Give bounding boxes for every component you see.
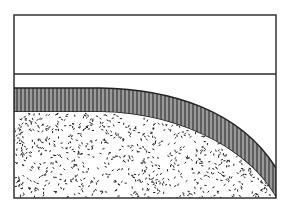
cross-section-diagram — [0, 0, 287, 219]
diagram-stage — [0, 0, 287, 219]
